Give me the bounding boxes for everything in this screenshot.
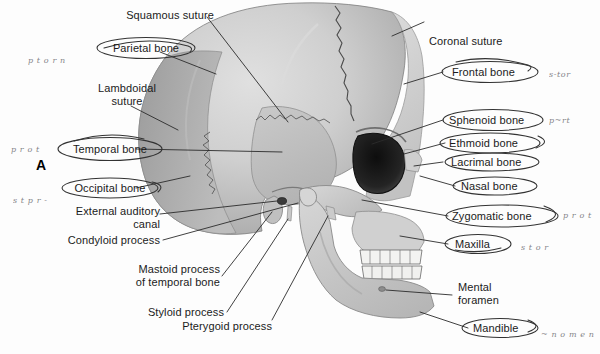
label-occipital-bone: Occipital bone [62,182,158,195]
label-coronal-suture: Coronal suture [429,35,503,48]
handwriting-right-sphenoid: p~rt [549,116,570,125]
label-ethmoid-bone: Ethmoid bone [449,137,518,150]
label-frontal-bone: Frontal bone [452,66,515,79]
label-pterygoid-process: Pterygoid process [160,320,272,333]
label-zygomatic-bone: Zygomatic bone [452,210,532,223]
label-mental-foramen: Mental foramen [458,281,499,306]
label-lacrimal-bone: Lacrimal bone [451,156,521,169]
label-sphenoid-bone: Sphenoid bone [449,114,524,127]
skull-anatomy-figure: Squamous suture Parietal bone Lambdoidal… [0,0,600,354]
label-nasal-bone: Nasal bone [461,180,518,193]
label-maxilla: Maxilla [455,238,490,251]
handwriting-right-mandible: ~ n o m e n [541,330,594,339]
label-external-auditory-canal: External auditory canal [40,205,160,230]
handwriting-right-frontal: s-tor [549,70,571,79]
handwriting-left-top: p t o r n [28,56,66,65]
handwriting-left-mid: p r o t [11,145,40,154]
figure-panel-letter: A [36,157,46,173]
handwriting-right-zygomatic: p r o t [563,211,592,220]
label-lambdoidal-suture: Lambdoidal suture [72,82,182,107]
ink-tail-zygomatic-bone [544,206,556,222]
label-mastoid-process: Mastoid process of temporal bone [100,263,220,288]
handwriting-left-low: s t p r - [13,196,48,205]
handwriting-right-maxilla: s t o r [521,243,549,252]
ink-annotation-circles [0,0,600,354]
label-temporal-bone: Temporal bone [60,143,160,156]
label-parietal-bone: Parietal bone [96,42,196,55]
label-styloid-process: Styloid process [120,306,224,319]
label-squamous-suture: Squamous suture [110,9,230,22]
label-condyloid-process: Condyloid process [42,234,160,247]
label-mandible: Mandible [473,322,518,335]
